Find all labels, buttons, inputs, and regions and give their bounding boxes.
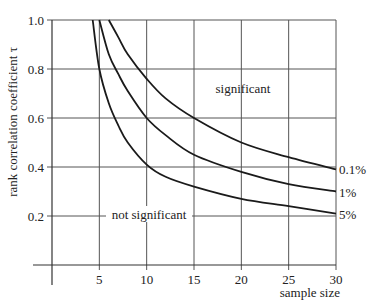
x-tick-label: 10: [140, 272, 153, 287]
rank-correlation-chart: 0.20.40.60.81.051015202530 0.1%1%5% rank…: [0, 0, 368, 301]
y-tick-label: 0.2: [28, 209, 44, 224]
series-label: 1%: [339, 185, 357, 200]
y-tick-label: 0.4: [28, 160, 45, 175]
series-labels: 0.1%1%5%: [339, 162, 366, 221]
curve-5_: [93, 20, 336, 214]
chart-axes: [33, 20, 336, 285]
curve-1_: [99, 20, 336, 192]
not-significant-region-label: not significant: [112, 207, 187, 222]
significant-region-label: significant: [216, 81, 271, 96]
chart-grid: [47, 20, 336, 270]
series-label: 5%: [339, 207, 357, 222]
x-tick-label: 20: [235, 272, 248, 287]
y-tick-label: 0.8: [28, 62, 44, 77]
y-axis-title: rank correlation coefficient τ: [5, 47, 20, 197]
x-axis-title: sample size: [280, 285, 341, 300]
x-tick-label: 15: [188, 272, 201, 287]
significance-curves: [93, 20, 336, 214]
y-tick-label: 0.6: [28, 111, 45, 126]
series-label: 0.1%: [339, 162, 366, 177]
x-tick-label: 5: [96, 272, 103, 287]
y-tick-label: 1.0: [28, 13, 44, 28]
